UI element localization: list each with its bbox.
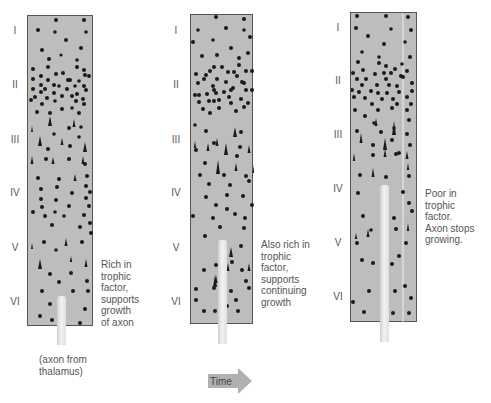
caption-line: trophic [261, 251, 310, 263]
cortex-panel-1 [27, 15, 93, 326]
caption-line: continuing [261, 285, 310, 297]
caption-line: growth [261, 297, 310, 309]
layer-label: I [329, 22, 347, 33]
layer-label: V [329, 237, 347, 248]
layer-label: III [329, 129, 347, 140]
axon-label: (axon from thalamus) [39, 354, 87, 377]
layer-label: II [329, 75, 347, 86]
caption-line: Poor in [425, 188, 474, 200]
layer-label: IV [329, 183, 347, 194]
layer-label: VI [167, 296, 185, 307]
caption-line: Rich in [101, 259, 139, 271]
layer-label: II [167, 79, 185, 90]
layer-label: IV [6, 187, 24, 198]
caption-line: growth [101, 305, 139, 317]
cells-pattern [28, 16, 94, 327]
layer-label: VI [6, 296, 24, 307]
caption-line: supports [101, 294, 139, 306]
caption-line: thalamus) [39, 366, 87, 378]
caption-line: trophic [101, 271, 139, 283]
layer-label: V [167, 242, 185, 253]
layer-label: II [6, 79, 24, 90]
axon-panel-1 [57, 296, 66, 345]
layer-label: V [6, 242, 24, 253]
caption-line: Also rich in [261, 239, 310, 251]
time-label: Time [210, 376, 232, 387]
caption-panel-2: Also rich in trophic factor, supports co… [261, 239, 310, 308]
layer-label: III [167, 134, 185, 145]
layer-label: VI [329, 291, 347, 302]
caption-line: supports [261, 274, 310, 286]
layer-label: I [167, 25, 185, 36]
layer-label: IV [167, 187, 185, 198]
layer-label: I [6, 25, 24, 36]
caption-line: factor, [101, 282, 139, 294]
caption-line: (axon from [39, 354, 87, 366]
caption-line: factor. [425, 211, 474, 223]
caption-panel-3: Poor in trophic factor. Axon stops growi… [425, 188, 474, 246]
layer-label: III [6, 134, 24, 145]
caption-line: growing. [425, 234, 474, 246]
caption-line: of axon [101, 317, 139, 329]
caption-line: factor, [261, 262, 310, 274]
caption-line: trophic [425, 200, 474, 212]
caption-line: Axon stops [425, 223, 474, 235]
caption-panel-1: Rich in trophic factor, supports growth … [101, 259, 139, 328]
axon-panel-2 [218, 240, 227, 344]
axon-panel-3 [380, 185, 389, 342]
